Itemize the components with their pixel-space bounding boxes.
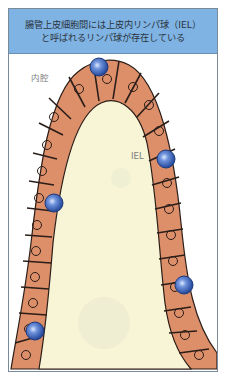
caption-line-1: 腸管上皮細胞間には上皮内リンパ球（IEL） (25, 18, 201, 31)
iel-label: IEL (131, 151, 144, 161)
iel-cell (175, 276, 193, 294)
caption-line-2: と呼ばれるリンパ球が存在している (41, 31, 185, 44)
iel-cell (45, 194, 63, 212)
lumen-label: 内腔 (31, 71, 49, 83)
villus-diagram (9, 53, 218, 372)
figure-frame: 腸管上皮細胞間には上皮内リンパ球（IEL） と呼ばれるリンパ球が存在している (8, 8, 218, 372)
caption-box: 腸管上皮細胞間には上皮内リンパ球（IEL） と呼ばれるリンパ球が存在している (9, 9, 217, 54)
iel-cell (157, 150, 175, 168)
iel-cell (90, 58, 108, 76)
iel-cell (26, 322, 44, 340)
